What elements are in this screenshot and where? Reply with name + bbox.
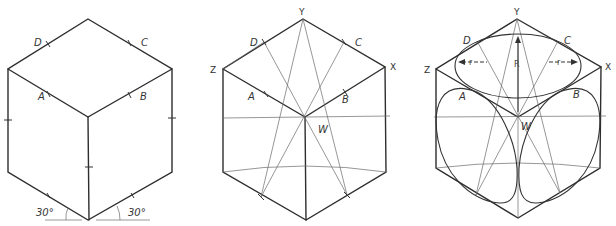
label-C: C bbox=[564, 35, 571, 46]
label-W: W bbox=[521, 121, 532, 132]
panel-basic-cube: D C A B 30° 30° bbox=[4, 19, 176, 220]
angle-label-right: 30° bbox=[128, 207, 146, 218]
isometric-diagram: D C A B 30° 30° bbox=[0, 0, 616, 226]
label-D: D bbox=[463, 35, 471, 46]
label-A: A bbox=[37, 91, 45, 102]
label-C: C bbox=[355, 37, 362, 48]
label-X: X bbox=[390, 62, 396, 72]
ellipse-right bbox=[519, 88, 600, 203]
label-Z: Z bbox=[424, 65, 430, 75]
label-Y: Y bbox=[513, 7, 520, 17]
label-Z: Z bbox=[210, 65, 216, 75]
label-R: R bbox=[514, 60, 520, 69]
cube-vertical-edge bbox=[305, 117, 306, 220]
label-A: A bbox=[247, 91, 255, 102]
panel-construction: Y Z X D C A B W bbox=[210, 7, 396, 220]
label-B: B bbox=[573, 89, 580, 100]
midpoint-ticks bbox=[4, 40, 176, 198]
radius-r-left-arrowhead bbox=[458, 59, 465, 65]
construction-lines bbox=[434, 19, 606, 195]
angle-arc-left bbox=[66, 208, 68, 220]
cube-vertical-edge bbox=[88, 117, 89, 220]
cube-top-edges bbox=[8, 69, 172, 117]
label-B: B bbox=[140, 91, 147, 102]
label-r-left: r bbox=[469, 58, 473, 67]
label-X: X bbox=[605, 62, 611, 72]
midpoint-ticks bbox=[258, 39, 350, 200]
label-D: D bbox=[250, 37, 258, 48]
radius-r-right-arrowhead bbox=[571, 59, 578, 65]
label-C: C bbox=[141, 37, 148, 48]
cube-outline bbox=[8, 19, 172, 220]
radius-R-arrowhead bbox=[515, 36, 521, 43]
label-r-right: r bbox=[557, 58, 561, 67]
panel-ellipses: Y Z X D C A B W R r r bbox=[424, 7, 611, 218]
label-W: W bbox=[318, 124, 329, 135]
angle-arc-right bbox=[117, 206, 120, 220]
label-B: B bbox=[342, 94, 349, 105]
ellipse-left bbox=[436, 88, 517, 203]
label-Y: Y bbox=[298, 7, 305, 17]
label-A: A bbox=[458, 91, 466, 102]
label-D: D bbox=[34, 37, 42, 48]
angle-label-left: 30° bbox=[36, 207, 54, 218]
